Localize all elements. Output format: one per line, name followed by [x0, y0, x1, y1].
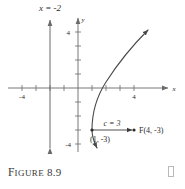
y-tick-label-neg4: -4 [65, 141, 71, 149]
focus-point-marker [132, 128, 135, 131]
vertex-label: (1, -3) [90, 135, 110, 144]
focus-label: F(4, -3) [139, 126, 164, 135]
figure-caption: FIGURE8.9 [8, 166, 61, 178]
x-tick-label-4: 4 [132, 93, 136, 101]
y-axis-label: y [80, 16, 85, 24]
focal-distance-label: c = 3 [104, 119, 121, 128]
y-axis: 4 -4 y [65, 16, 85, 152]
figure-caption-rest: IGURE [15, 168, 45, 178]
vertex-point-marker [90, 128, 93, 131]
x-axis-label: x [171, 85, 176, 93]
y-tick-label-4: 4 [67, 29, 71, 37]
directrix-label: x = -2 [38, 3, 62, 13]
vertex-point-group: (1, -3) [90, 128, 110, 144]
missing-character-box-icon [168, 166, 174, 177]
focus-point-group: F(4, -3) [132, 126, 163, 135]
x-axis: -4 4 x [8, 85, 176, 101]
figure-container: -4 4 x 4 -4 y [0, 0, 185, 189]
figure-number: 8.9 [47, 166, 61, 178]
parabola-graph: -4 4 x 4 -4 y [0, 0, 185, 165]
parabola-upper-branch [92, 30, 148, 130]
figure-caption-lead: F [8, 166, 15, 178]
focal-distance-annotation: c = 3 [93, 119, 132, 130]
x-tick-label-neg4: -4 [19, 93, 25, 101]
